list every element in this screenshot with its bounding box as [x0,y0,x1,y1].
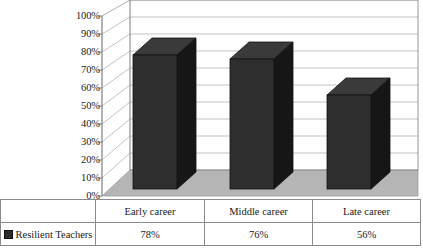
y-tick-100: 100% [48,10,100,21]
column-header-middle-career: Middle career [205,200,313,223]
column-header-early-career: Early career [96,200,205,223]
data-table: Early career Middle career Late career R… [0,199,421,246]
y-tick-90: 90% [48,28,100,39]
value-cell-middle-career: 76% [205,223,313,246]
left-depth-wall [102,0,130,196]
bar-middle-career[interactable] [230,42,293,189]
header-corner-cell [1,200,96,223]
y-tick-30: 30% [48,136,100,147]
value-cell-late-career: 56% [313,223,421,246]
bar-early-career[interactable] [133,38,196,189]
bar-late-career[interactable] [327,78,390,189]
table-header-row: Early career Middle career Late career [1,200,421,223]
y-tick-60: 60% [48,82,100,93]
table-row: Resilient Teachers 78% 76% 56% [1,223,421,246]
value-cell-early-career: 78% [96,223,205,246]
legend-swatch-icon [4,230,13,239]
series-label: Resilient Teachers [16,229,93,240]
y-tick-20: 20% [48,154,100,165]
column-header-late-career: Late career [313,200,421,223]
y-tick-80: 80% [48,46,100,57]
legend-series-cell: Resilient Teachers [1,223,96,246]
y-tick-50: 50% [48,100,100,111]
y-axis-labels: 100% 90% 80% 70% 60% 50% 40% 30% 20% 10%… [48,0,100,205]
chart-container: 100% 90% 80% 70% 60% 50% 40% 30% 20% 10%… [0,0,423,248]
y-tick-10: 10% [48,172,100,183]
y-tick-40: 40% [48,118,100,129]
y-tick-70: 70% [48,64,100,75]
